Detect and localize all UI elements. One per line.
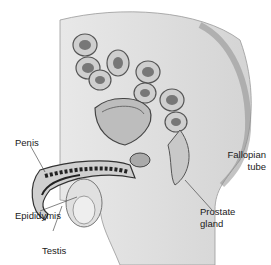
label-fallopian-tube: Fallopian tube bbox=[222, 149, 266, 173]
label-prostate-line2: gland bbox=[200, 218, 235, 230]
label-prostate-gland: Prostate gland bbox=[200, 206, 235, 230]
label-penis: Penis bbox=[15, 137, 39, 149]
label-fallopian-line1: Fallopian bbox=[222, 149, 266, 161]
label-epididymis: Epididymis bbox=[15, 210, 61, 222]
label-testis: Testis bbox=[42, 245, 66, 257]
label-fallopian-line2: tube bbox=[222, 161, 266, 173]
label-prostate-line1: Prostate bbox=[200, 206, 235, 218]
